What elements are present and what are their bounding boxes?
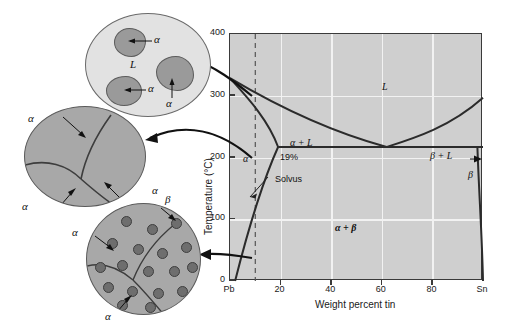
callout-arrow-mid-line	[150, 130, 252, 158]
callout-arrow-bot-line	[205, 254, 252, 258]
micrograph-mid-leaders	[25, 107, 146, 207]
micrograph-alpha-grains	[24, 106, 146, 207]
alpha-label-bot-1: α	[72, 226, 78, 238]
alpha-label-bot-2: α	[105, 310, 111, 322]
micrograph-liquid-plus-alpha: α α α L	[85, 13, 211, 117]
alpha-label-top-2: α	[148, 82, 154, 94]
alpha-label-mid-2: α	[152, 184, 158, 196]
beta-label-bot: β	[165, 193, 170, 205]
alpha-label-top-1: α	[154, 33, 160, 45]
alpha-label-top-3: α	[166, 97, 172, 109]
alpha-label-mid-3: α	[22, 200, 28, 212]
micrograph-bot-leaders	[87, 204, 201, 315]
callout-arrow-mid-head	[145, 133, 158, 143]
liquid-label-top: L	[130, 58, 136, 70]
micrograph-alpha-plus-beta	[86, 203, 201, 315]
micrograph-top-leaders	[86, 14, 212, 118]
alpha-label-mid-1: α	[28, 112, 34, 124]
phase-diagram-figure: L α + L β + L β α α + β 19% Solvus 0 100…	[0, 0, 507, 326]
